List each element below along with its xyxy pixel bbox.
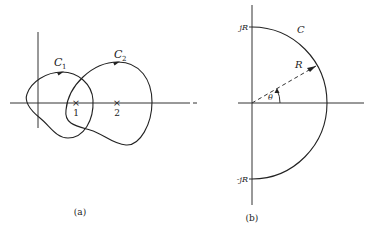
contour-figure: C 1 C 2 × 1 × 2 (a) C R θ jR -jR (b) bbox=[0, 0, 378, 236]
caption-a: (a) bbox=[74, 207, 86, 217]
theta-arrow-icon bbox=[275, 88, 280, 93]
caption-b: (b) bbox=[246, 213, 259, 223]
contour-label-c: C bbox=[297, 24, 305, 35]
angle-label: θ bbox=[268, 93, 273, 102]
radius-label: R bbox=[294, 59, 303, 70]
radius-arrow-icon bbox=[307, 66, 316, 72]
neg-jR-label: -jR bbox=[237, 175, 248, 184]
jR-label: jR bbox=[237, 23, 248, 32]
radius-line bbox=[252, 66, 316, 103]
pole-1-marker-icon: × bbox=[72, 97, 80, 108]
pole-2-label: 2 bbox=[114, 108, 120, 118]
c2-subscript: 2 bbox=[122, 55, 126, 63]
panel-b: C R θ jR -jR (b) bbox=[193, 5, 364, 223]
pole-2-marker-icon: × bbox=[113, 97, 121, 108]
pole-1-label: 1 bbox=[73, 108, 79, 118]
c1-subscript: 1 bbox=[62, 63, 66, 71]
panel-a: C 1 C 2 × 1 × 2 (a) bbox=[10, 32, 190, 217]
